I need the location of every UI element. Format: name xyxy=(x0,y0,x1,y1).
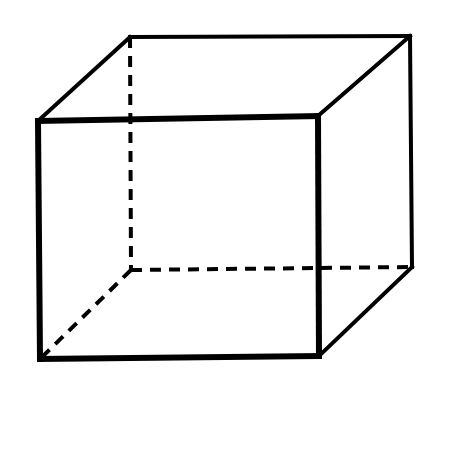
visible-edge xyxy=(410,36,412,267)
visible-edge xyxy=(38,37,130,121)
visible-edge xyxy=(318,116,319,356)
visible-edge xyxy=(130,36,410,37)
hidden-edge xyxy=(40,270,131,359)
cube-diagram xyxy=(0,0,457,455)
visible-edges xyxy=(38,36,412,359)
visible-edge xyxy=(38,121,40,359)
visible-edge xyxy=(40,356,319,359)
hidden-edge xyxy=(130,37,131,270)
visible-edge xyxy=(318,36,410,116)
visible-edge xyxy=(319,267,412,356)
visible-edge xyxy=(38,116,318,121)
hidden-edge xyxy=(131,267,412,270)
